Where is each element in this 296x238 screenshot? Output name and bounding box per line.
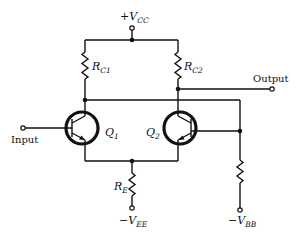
vcc-supply: +VCC [85,10,178,42]
resistor-zigzag-icon [82,52,88,79]
vee-label: −VEE [119,214,148,229]
resistor-zigzag-icon [237,160,243,183]
transistor-q2: Q2 [146,112,242,161]
transistor-q1: Input Q1 [11,112,119,161]
vbb-label: −VBB [228,214,257,229]
resistor-rc2: RC2 [175,40,203,112]
junction-dot-icon [130,38,135,43]
differential-amplifier-schematic: +VCC RC1 RC2 Output [0,0,296,238]
rc2-label: RC2 [183,60,203,75]
input-label: Input [11,134,38,145]
output-node: Output [176,73,289,91]
q1-label: Q1 [105,126,119,141]
resistor-re: RE −VEE [85,159,178,229]
vcc-label: +VCC [120,10,149,25]
output-terminal-icon [270,87,274,91]
resistor-zigzag-icon [129,173,135,196]
resistor-zigzag-icon [175,52,181,79]
output-label: Output [253,73,289,84]
q2-label: Q2 [146,126,160,141]
rc1-label: RC1 [91,60,111,75]
vcc-terminal-icon [130,26,134,30]
vbb-terminal-icon [238,208,242,212]
resistor-rb: −VBB [228,131,257,229]
re-label: RE [113,180,128,195]
vee-terminal-icon [130,206,134,210]
input-terminal-icon [21,126,25,130]
